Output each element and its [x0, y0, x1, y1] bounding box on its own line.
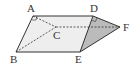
- prism-figure: A D C F B E: [0, 0, 134, 75]
- vertex-label-f: F: [123, 21, 129, 33]
- vertex-label-a: A: [27, 2, 35, 14]
- vertex-label-d: D: [90, 2, 98, 14]
- vertex-label-c: C: [53, 29, 60, 41]
- vertex-label-b: B: [10, 53, 17, 65]
- vertex-label-e: E: [75, 53, 82, 65]
- triangular-prism-diagram: A D C F B E: [0, 0, 134, 75]
